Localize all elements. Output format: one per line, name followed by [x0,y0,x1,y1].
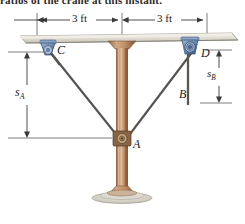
dimension-arrow-icon-sb-bottom [216,96,222,103]
dimension-arrow-icon-right [122,17,129,23]
dimension-arrow-icon-sb-top [216,50,222,57]
dimension-label-right-span: 3 ft [157,13,172,24]
label-pulley-c: C [57,44,65,56]
label-distance-sa: sA [15,86,25,101]
dimension-arrow-icon-left [37,17,44,23]
label-pulley-a: A [133,138,140,150]
dimension-arrow-icon-sa-top [24,52,30,59]
label-block-b: B [179,88,186,100]
dimension-label-left-span: 3 ft [72,13,87,24]
label-pulley-d: D [201,47,210,59]
pulley-d [181,37,199,54]
figure-canvas: ratios of the crane at this instant. [0,0,245,224]
dimension-arrow-icon-sa-bottom [24,131,30,138]
column-capital [108,41,136,49]
label-distance-sb: sB [207,68,216,82]
pulley-a [113,131,131,146]
dimension-left-span [14,17,118,23]
label-distance-sa-subscript: A [20,92,25,101]
label-distance-sb-subscript: B [211,74,215,82]
support-column [92,41,152,204]
pulley-c [40,40,56,55]
crane-pulley-diagram [0,0,245,224]
